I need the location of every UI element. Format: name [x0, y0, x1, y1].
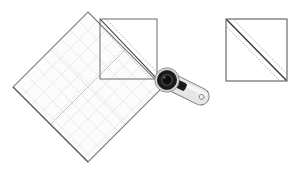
diagram-canvas: Quilting instruction diagram: trimming a… [0, 0, 301, 174]
quilting-diagram-svg [0, 0, 301, 174]
cutter-hub-specular [163, 76, 166, 79]
